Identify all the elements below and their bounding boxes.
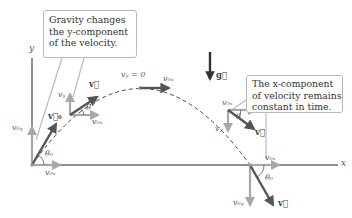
rising-angle-label: θ [86, 104, 91, 112]
x-component-callout: The x-component of velocity remains cons… [246, 75, 343, 113]
x-callout-line-3: constant in time. [252, 101, 337, 113]
x-callout-line-2: of velocity remains [252, 90, 337, 102]
launch-angle-label: θ₀ [45, 150, 53, 158]
gravity-callout: Gravity changes the y-component of the v… [43, 10, 137, 58]
launch-point-vectors [30, 124, 60, 167]
gravity-label: g⃗ [216, 71, 227, 80]
landing-vy-label: v₀ᵧ [233, 199, 244, 207]
launch-v-label: v⃗₀ [48, 112, 62, 121]
gravity-callout-pointer [36, 58, 84, 140]
apex-vx-label: v₀ₓ [163, 75, 174, 83]
falling-angle-label: θ [236, 113, 241, 121]
falling-vy-label: vᵧ [215, 125, 223, 133]
rising-v-label: v⃗ [89, 80, 99, 89]
landing-vx-label: v₀ₓ [265, 154, 276, 162]
rising-vy-label: vᵧ [58, 91, 66, 99]
rising-vx-label: v₀ₓ [92, 118, 103, 126]
y-axis-label: y [29, 44, 34, 53]
gravity-callout-line-1: Gravity changes [49, 14, 131, 26]
gravity-callout-line-2: the y-component [49, 26, 131, 38]
landing-v-label: v⃗ [278, 199, 288, 208]
launch-vy-label: v₀ᵧ [12, 124, 23, 132]
x-axis-label: x [341, 159, 346, 168]
apex-vy-label: vᵧ = 0 [121, 71, 145, 79]
falling-point-vectors [228, 110, 256, 131]
falling-vx-label: v₀ₓ [222, 99, 233, 107]
gravity-callout-line-3: of the velocity. [49, 37, 131, 49]
x-callout-line-1: The x-component [252, 78, 337, 90]
landing-angle-label: θ₀ [265, 174, 273, 182]
launch-vx-label: v₀ₓ [45, 169, 56, 177]
rising-point-vectors [70, 94, 98, 115]
landing-point-vectors [248, 163, 279, 205]
falling-v-label: v⃗ [255, 128, 265, 137]
